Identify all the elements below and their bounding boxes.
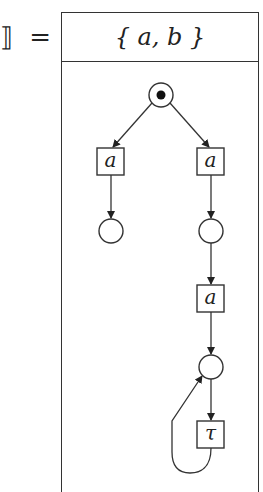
arc-p0-t1: [113, 103, 152, 147]
place-loop: [199, 355, 223, 379]
transition-label: τ: [205, 421, 217, 445]
transition-label: a: [205, 285, 217, 309]
transition-label: a: [205, 148, 217, 172]
token-icon: [157, 91, 166, 100]
transition-label: a: [105, 148, 117, 172]
place-right-mid: [199, 219, 223, 243]
place-left-end: [99, 219, 123, 243]
arc-p0-t2: [170, 103, 209, 147]
